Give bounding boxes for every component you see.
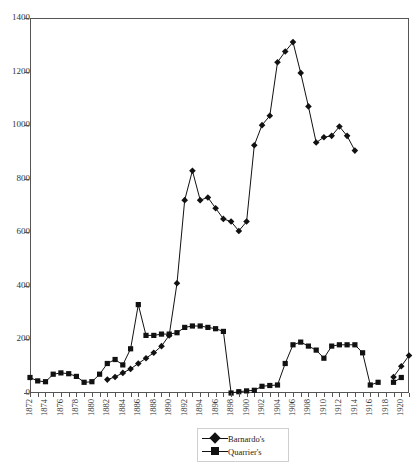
data-point-square [198, 323, 203, 328]
data-point-square [74, 374, 79, 379]
x-tick-mark [308, 393, 309, 397]
data-point-diamond [220, 216, 227, 223]
x-tick-mark [53, 393, 54, 397]
data-point-diamond [251, 142, 258, 149]
legend-item-barnardos: Barnardo's [202, 432, 284, 445]
data-point-square [128, 346, 133, 351]
data-point-square [376, 380, 381, 385]
data-point-square [43, 379, 48, 384]
x-tick-mark [131, 393, 132, 397]
data-point-square [82, 380, 87, 385]
x-tick-label: 1872 [25, 399, 34, 416]
x-tick-label: 1890 [164, 399, 173, 416]
x-tick-mark [355, 393, 356, 397]
x-tick-label: 1882 [102, 399, 111, 416]
x-tick-label: 1888 [149, 399, 158, 416]
x-tick-mark [76, 393, 77, 397]
data-point-square [190, 323, 195, 328]
data-point-square [167, 332, 172, 337]
x-tick-mark [123, 393, 124, 397]
data-point-square [345, 342, 350, 347]
data-point-square [391, 380, 396, 385]
x-tick-mark [61, 393, 62, 397]
x-tick-mark [409, 393, 410, 397]
x-tick-mark [208, 393, 209, 397]
x-tick-label: 1874 [40, 399, 49, 416]
data-point-diamond [181, 197, 188, 204]
x-tick-mark [30, 393, 31, 397]
x-tick-mark [223, 393, 224, 397]
data-point-diamond [120, 370, 127, 377]
data-point-square [143, 333, 148, 338]
data-point-square [298, 340, 303, 345]
data-point-diamond [112, 374, 119, 381]
data-point-diamond [197, 197, 204, 204]
data-point-square [259, 384, 264, 389]
series-barnardos [104, 39, 412, 383]
x-tick-mark [169, 393, 170, 397]
x-tick-mark [370, 393, 371, 397]
x-tick-mark [378, 393, 379, 397]
data-point-diamond [189, 167, 196, 174]
legend-item-quarriers: Quarrier's [202, 445, 284, 458]
data-point-square [89, 379, 94, 384]
data-point-square [159, 332, 164, 337]
data-point-diamond [352, 147, 359, 154]
x-tick-mark [324, 393, 325, 397]
x-tick-mark [316, 393, 317, 397]
x-tick-mark [301, 393, 302, 397]
x-tick-mark [262, 393, 263, 397]
data-point-diamond [127, 366, 134, 373]
chart-legend: Barnardo's Quarrier's [197, 428, 289, 462]
data-point-diamond [398, 363, 405, 370]
data-point-diamond [174, 280, 181, 287]
x-tick-label: 1920 [396, 399, 405, 416]
x-tick-label: 1914 [350, 399, 359, 416]
x-tick-mark [216, 393, 217, 397]
data-point-square [360, 350, 365, 355]
x-tick-mark [69, 393, 70, 397]
data-point-diamond [390, 374, 397, 381]
x-tick-label: 1898 [226, 399, 235, 416]
legend-label-barnardos: Barnardo's [228, 434, 264, 444]
data-point-diamond [274, 59, 281, 66]
x-tick-label: 1902 [257, 399, 266, 416]
x-tick-mark [339, 393, 340, 397]
legend-line-square-icon [202, 446, 228, 457]
x-tick-mark [347, 393, 348, 397]
data-point-square [314, 348, 319, 353]
data-point-square [368, 382, 373, 387]
data-point-square [27, 375, 32, 380]
data-point-diamond [321, 134, 328, 141]
legend-label-quarriers: Quarrier's [228, 447, 262, 457]
data-point-square [58, 370, 63, 375]
x-tick-mark [278, 393, 279, 397]
x-tick-mark [192, 393, 193, 397]
x-tick-mark [177, 393, 178, 397]
x-tick-mark [107, 393, 108, 397]
data-point-diamond [143, 355, 150, 362]
x-tick-mark [285, 393, 286, 397]
series-quarriers [27, 302, 404, 396]
data-point-square [329, 344, 334, 349]
data-point-square [399, 375, 404, 380]
chart-root: 0200400600800100012001400 18721874187618… [0, 0, 417, 467]
x-tick-mark [270, 393, 271, 397]
x-tick-label: 1892 [180, 399, 189, 416]
x-tick-mark [254, 393, 255, 397]
data-point-diamond [205, 194, 212, 201]
data-point-square [136, 302, 141, 307]
x-tick-label: 1880 [87, 399, 96, 416]
data-point-diamond [297, 70, 304, 77]
data-point-square [66, 371, 71, 376]
x-tick-label: 1904 [273, 399, 282, 416]
data-point-square [337, 342, 342, 347]
data-point-square [97, 372, 102, 377]
x-tick-mark [45, 393, 46, 397]
x-tick-mark [115, 393, 116, 397]
x-tick-label: 1886 [133, 399, 142, 416]
data-point-diamond [406, 352, 413, 359]
x-tick-mark [200, 393, 201, 397]
data-point-square [290, 342, 295, 347]
x-tick-mark [154, 393, 155, 397]
